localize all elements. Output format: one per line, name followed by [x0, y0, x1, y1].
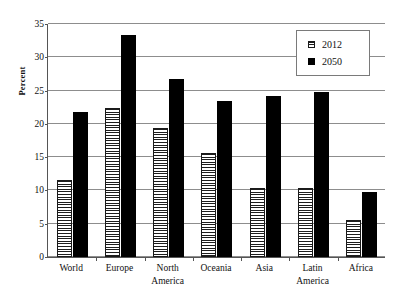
x-tick-mark [145, 257, 146, 261]
y-tick-label: 30 [35, 52, 45, 62]
bar-group [145, 24, 193, 257]
x-tick-mark [289, 257, 290, 261]
bar-2050 [121, 35, 136, 257]
x-tick-label: Europe [95, 262, 143, 275]
x-tick-label: Asia [240, 262, 288, 275]
legend-swatch [308, 58, 315, 65]
bar-group [48, 24, 96, 257]
bar-2012 [298, 188, 313, 257]
x-tick-label: World [47, 262, 95, 275]
bar-2050 [169, 79, 184, 257]
x-tick-label: Africa [337, 262, 385, 275]
y-tick-label: 20 [35, 119, 45, 129]
bar-2050 [73, 112, 88, 257]
x-tick-mark [193, 257, 194, 261]
x-axis-labels: WorldEuropeNorthAmericaOceaniaAsiaLatinA… [47, 262, 385, 298]
bar-2050 [217, 101, 232, 257]
bar-chart: Percent 05101520253035 WorldEuropeNorthA… [0, 0, 397, 300]
bar-2012 [250, 188, 265, 257]
legend-entry-2012: 2012 [297, 36, 369, 53]
bar-2050 [314, 92, 329, 257]
x-tick-label: LatinAmerica [288, 262, 336, 287]
bar-2012 [201, 153, 216, 257]
y-tick-label: 35 [35, 19, 45, 29]
bar-2012 [57, 180, 72, 257]
x-tick-mark [241, 257, 242, 261]
y-tick-label: 10 [35, 185, 45, 195]
x-tick-label: NorthAmerica [144, 262, 192, 287]
legend: 20122050 [296, 30, 370, 76]
bar-2050 [266, 96, 281, 257]
y-tick-label: 15 [35, 152, 45, 162]
y-tick-label: 5 [39, 219, 44, 229]
y-tick-mark [45, 257, 49, 258]
legend-entries: 20122050 [297, 36, 369, 70]
legend-entry-2050: 2050 [297, 53, 369, 70]
legend-swatch [308, 41, 315, 48]
bar-group [96, 24, 144, 257]
bar-group [241, 24, 289, 257]
x-tick-mark [96, 257, 97, 261]
bar-2012 [105, 108, 120, 257]
bar-2012 [346, 220, 361, 257]
x-tick-label: Oceania [192, 262, 240, 275]
x-tick-mark [338, 257, 339, 261]
y-axis-title: Percent [15, 36, 29, 126]
bar-2012 [153, 128, 168, 257]
legend-label: 2050 [322, 56, 342, 67]
y-tick-label: 0 [39, 252, 44, 262]
legend-label: 2012 [322, 39, 342, 50]
bar-group [193, 24, 241, 257]
y-tick-label: 25 [35, 86, 45, 96]
bar-2050 [362, 192, 377, 257]
